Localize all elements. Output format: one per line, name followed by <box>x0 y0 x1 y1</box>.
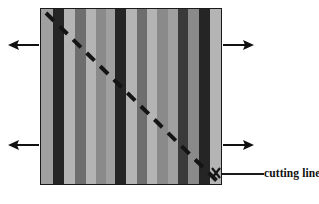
figure-canvas: cutting line <box>0 0 319 204</box>
stripe-6 <box>96 9 105 184</box>
stripe-7 <box>106 9 115 184</box>
striped-block <box>40 8 222 185</box>
cutting-line-label: cutting line <box>264 167 319 179</box>
stripe-12 <box>157 9 167 184</box>
arrow-bottom-right-icon <box>222 136 256 154</box>
stripe-14 <box>178 9 188 184</box>
stripe-11 <box>147 9 157 184</box>
stripe-5 <box>86 9 96 184</box>
stripe-1 <box>41 9 53 184</box>
stripe-13 <box>168 9 178 184</box>
stripe-17 <box>210 9 221 184</box>
arrow-top-left-icon <box>6 36 40 54</box>
callout-leader-line <box>222 173 264 175</box>
stripe-3 <box>64 9 74 184</box>
stripe-10 <box>137 9 147 184</box>
stripe-8 <box>115 9 126 184</box>
stripe-2 <box>53 9 64 184</box>
stripe-9 <box>126 9 136 184</box>
stripe-15 <box>188 9 198 184</box>
stripe-16 <box>199 9 210 184</box>
stripe-4 <box>75 9 86 184</box>
arrow-top-right-icon <box>222 36 256 54</box>
arrow-bottom-left-icon <box>6 136 40 154</box>
